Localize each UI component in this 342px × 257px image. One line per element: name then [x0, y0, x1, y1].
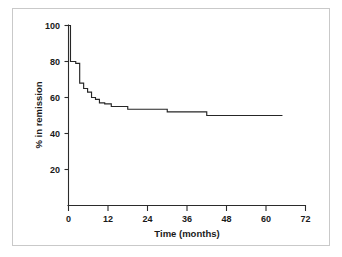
x-tick-label-60: 60	[261, 214, 271, 224]
x-axis-ticks	[69, 206, 306, 212]
x-tick-label-72: 72	[300, 214, 310, 224]
x-axis-title: Time (months)	[154, 228, 219, 239]
y-tick-label-60: 60	[50, 93, 60, 103]
y-tick-label-20: 20	[50, 165, 60, 175]
y-tick-label-80: 80	[50, 57, 60, 67]
x-tick-label-36: 36	[182, 214, 192, 224]
kaplan-meier-chart: 100 80 60 40 20 0 12 24 36 48 60 72 Time…	[0, 0, 342, 257]
x-tick-label-48: 48	[221, 214, 231, 224]
y-tick-label-40: 40	[50, 129, 60, 139]
x-tick-label-12: 12	[103, 214, 113, 224]
x-tick-label-24: 24	[142, 214, 152, 224]
survival-step-curve	[69, 26, 283, 116]
y-axis-ticks	[65, 26, 69, 170]
figure-container: 100 80 60 40 20 0 12 24 36 48 60 72 Time…	[0, 0, 342, 257]
y-axis-title: % in remission	[33, 81, 44, 148]
x-tick-label-0: 0	[66, 214, 71, 224]
y-tick-label-100: 100	[45, 21, 60, 31]
